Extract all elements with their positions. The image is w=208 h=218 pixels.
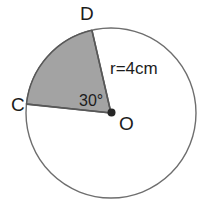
center-point-dot — [108, 109, 116, 117]
angle-measurement-label: 30° — [79, 93, 103, 109]
point-label-d: D — [80, 4, 94, 23]
point-label-c: C — [11, 95, 25, 114]
radius-measurement-label: r=4cm — [110, 60, 158, 77]
circle-sector-svg — [0, 0, 208, 218]
geometry-figure: D C O r=4cm 30° — [0, 0, 208, 218]
point-label-o: O — [119, 114, 134, 133]
